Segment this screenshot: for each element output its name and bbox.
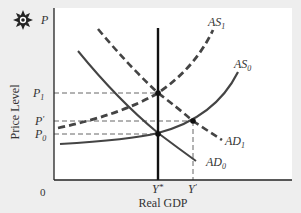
y-axis-letter: P: [40, 13, 49, 27]
ytick-p0: P0: [34, 127, 46, 143]
equilibrium-long-run: [155, 90, 161, 96]
y-axis-label: Price Level: [8, 84, 22, 140]
ytick-pprime: P': [34, 114, 45, 128]
origin-label: 0: [40, 186, 46, 198]
ad-as-chart: P P1 P' P0 Price Level 0 Y* Y' Real GDP …: [0, 0, 301, 213]
equilibrium-initial: [155, 131, 161, 137]
xtick-ystar: Y*: [152, 182, 164, 196]
ytick-p1: P1: [32, 86, 44, 102]
equilibrium-short-run: [190, 118, 196, 124]
x-axis-label: Real GDP: [139, 196, 188, 210]
xtick-yprime: Y': [188, 182, 198, 196]
sun-icon: [13, 10, 33, 30]
plot-area: [54, 8, 292, 180]
